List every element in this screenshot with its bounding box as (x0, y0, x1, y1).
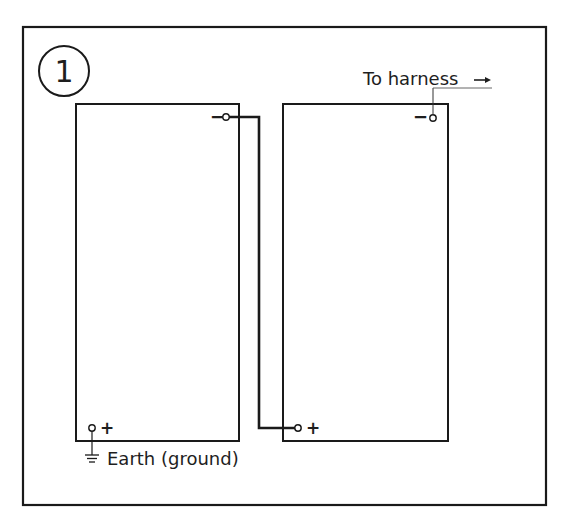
figure-number: 1 (54, 54, 73, 89)
battery-1-positive-terminal (89, 425, 95, 431)
battery-1-positive-label: + (100, 418, 114, 438)
figure-number-badge: 1 (39, 46, 89, 96)
battery-2-negative-terminal (430, 115, 436, 121)
wiring-diagram: 1 − + − + To harness Earth (g (0, 0, 564, 526)
battery-1-negative-terminal (223, 114, 229, 120)
battery-2-positive-label: + (306, 418, 320, 438)
earth-label: Earth (ground) (107, 448, 239, 469)
arrow-right-icon (474, 77, 491, 83)
battery-2-positive-terminal (295, 425, 301, 431)
ground-icon (85, 455, 99, 462)
battery-1: − + (76, 104, 239, 441)
to-harness-label: To harness (362, 68, 458, 89)
battery-2-negative-label: − (413, 106, 428, 127)
battery-2: − + (283, 104, 448, 441)
